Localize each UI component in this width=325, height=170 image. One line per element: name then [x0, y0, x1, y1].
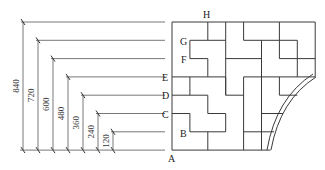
curved-edge: [267, 74, 316, 150]
dimension-label-480: 480: [56, 106, 66, 120]
label-H: H: [203, 9, 210, 20]
dimension-label-840: 840: [11, 79, 21, 93]
label-F: F: [181, 54, 187, 65]
label-A: A: [168, 153, 176, 164]
label-B: B: [180, 128, 187, 139]
dimension-label-120: 120: [101, 134, 111, 148]
dimension-label-360: 360: [71, 115, 81, 129]
tile-outlines: [172, 22, 315, 150]
dimension-label-240: 240: [86, 125, 96, 139]
label-G: G: [180, 36, 187, 47]
dimension-label-720: 720: [26, 88, 36, 102]
label-E: E: [162, 72, 168, 83]
point-labels: A B C D E F G H: [162, 9, 210, 164]
tile-diagram: 120240360480600720840 A B C D E F G H: [0, 0, 325, 170]
label-C: C: [162, 109, 169, 120]
label-D: D: [162, 90, 169, 101]
dimension-label-600: 600: [41, 97, 51, 111]
